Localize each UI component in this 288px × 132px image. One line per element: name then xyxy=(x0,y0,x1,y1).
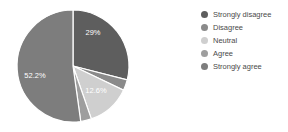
legend-swatch-icon xyxy=(201,37,208,44)
pie-slice-value-label: 52.2% xyxy=(24,71,46,80)
pie-chart-plot-area: 29%12.6%52.2% xyxy=(0,0,150,132)
legend-swatch-icon xyxy=(201,50,208,57)
pie-slice-value-label: 12.6% xyxy=(85,86,107,95)
legend-item[interactable]: Disagree xyxy=(201,21,288,34)
legend-item[interactable]: Agree xyxy=(201,47,288,60)
legend-item[interactable]: Strongly agree xyxy=(201,60,288,73)
legend-item[interactable]: Neutral xyxy=(201,34,288,47)
legend-swatch-icon xyxy=(201,24,208,31)
legend-item[interactable]: Strongly disagree xyxy=(201,8,288,21)
legend-item-label: Strongly disagree xyxy=(213,10,271,19)
pie-slice-value-label: 29% xyxy=(85,28,100,37)
legend-item-label: Agree xyxy=(213,49,233,58)
pie-slices xyxy=(17,10,129,122)
pie-chart-svg: 29%12.6%52.2% xyxy=(0,0,150,132)
legend-item-label: Disagree xyxy=(213,23,243,32)
legend-item-label: Neutral xyxy=(213,36,237,45)
legend-swatch-icon xyxy=(201,11,208,18)
legend-swatch-icon xyxy=(201,63,208,70)
chart-legend: Strongly disagreeDisagreeNeutralAgreeStr… xyxy=(201,8,288,73)
pie-chart-figure: 29%12.6%52.2% Strongly disagreeDisagreeN… xyxy=(0,0,288,132)
legend-item-label: Strongly agree xyxy=(213,62,262,71)
pie-slice[interactable] xyxy=(17,10,81,122)
